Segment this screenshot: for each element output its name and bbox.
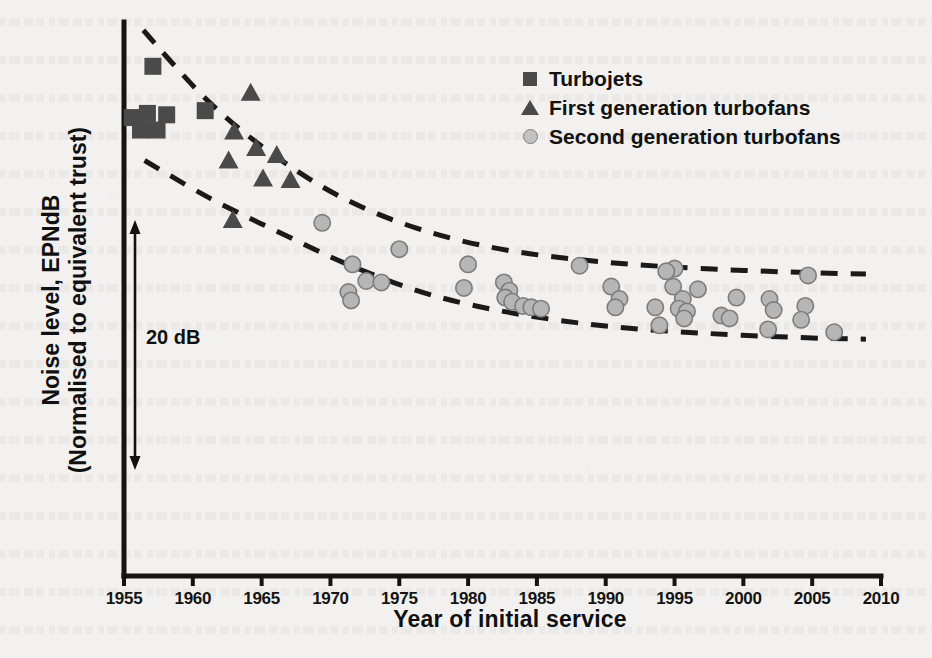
square-marker-icon	[517, 72, 543, 86]
data-point-triangle	[219, 151, 239, 169]
data-point-square	[149, 122, 166, 139]
data-point-circle	[800, 267, 816, 283]
legend-item-second-generation-turbofans: Second generation turbofans	[517, 122, 841, 151]
data-point-triangle	[253, 169, 273, 187]
data-point-circle	[343, 292, 359, 308]
triangle-marker-icon	[517, 100, 543, 115]
circle-marker-icon	[517, 129, 543, 144]
data-point-circle	[647, 299, 663, 315]
data-point-circle	[721, 310, 737, 326]
series-turbojets-markers	[124, 58, 214, 139]
data-point-circle	[728, 289, 744, 305]
data-point-circle	[607, 299, 623, 315]
data-point-circle	[690, 281, 706, 297]
data-point-circle	[765, 302, 781, 318]
data-point-triangle	[224, 121, 244, 139]
data-point-circle	[676, 310, 692, 326]
data-point-square	[139, 105, 156, 122]
x-axis-tick-label: 1960	[163, 589, 223, 609]
range-arrow-annotation	[130, 220, 141, 470]
chart-legend: Turbojets First generation turbofans Sec…	[517, 64, 841, 151]
x-axis-tick-label: 1965	[232, 589, 292, 609]
data-point-circle	[793, 312, 809, 328]
data-point-circle	[358, 273, 374, 289]
data-point-circle	[533, 300, 549, 316]
data-point-triangle	[241, 83, 261, 101]
data-point-circle	[373, 274, 389, 290]
noise-level-scatter-chart: 1955196019651970197519801985199019952000…	[0, 0, 932, 658]
data-point-circle	[344, 256, 360, 272]
x-axis-tick-label: 1955	[94, 589, 154, 609]
data-point-square	[197, 102, 214, 119]
x-axis-tick-label: 2005	[782, 589, 842, 609]
legend-item-first-generation-turbofans: First generation turbofans	[517, 93, 841, 122]
x-axis-title: Year of initial service	[300, 606, 720, 633]
data-point-circle	[460, 256, 476, 272]
y-axis-title-line2: (Normalised to equivalent trust)	[65, 50, 92, 550]
data-point-circle	[391, 241, 407, 257]
data-point-triangle	[267, 145, 287, 163]
legend-label-turbojets: Turbojets	[549, 65, 643, 93]
data-point-circle	[314, 215, 330, 231]
legend-item-turbojets: Turbojets	[517, 64, 841, 93]
y-axis-title-line1: Noise level, EPNdB	[38, 50, 65, 550]
data-point-square	[132, 122, 149, 139]
data-point-triangle	[246, 138, 266, 156]
data-point-circle	[571, 258, 587, 274]
data-point-circle	[760, 321, 776, 337]
data-point-circle	[826, 324, 842, 340]
legend-label-first-generation-turbofans: First generation turbofans	[549, 94, 810, 122]
data-point-circle	[651, 317, 667, 333]
data-point-triangle	[223, 210, 243, 228]
data-point-circle	[456, 280, 472, 296]
range-arrow-label: 20 dB	[146, 326, 200, 349]
data-point-square	[144, 58, 161, 75]
data-point-square	[158, 106, 175, 123]
y-axis-title: Noise level, EPNdB (Normalised to equiva…	[38, 50, 92, 550]
x-axis-tick-label: 2000	[713, 589, 773, 609]
x-axis-tick-label: 2010	[851, 589, 911, 609]
legend-label-second-generation-turbofans: Second generation turbofans	[549, 123, 841, 151]
data-point-circle	[658, 263, 674, 279]
